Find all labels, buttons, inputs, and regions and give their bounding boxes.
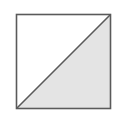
diagonal-square-diagram xyxy=(0,0,117,115)
